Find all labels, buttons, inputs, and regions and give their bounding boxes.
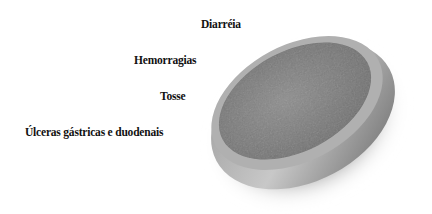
tablet-image — [195, 15, 432, 214]
symptom-label-tosse: Tosse — [160, 90, 185, 102]
tablet-disc-icon — [195, 15, 432, 214]
symptom-label-hemorragias: Hemorragias — [134, 54, 196, 66]
symptom-label-ulceras: Úlceras gástricas e duodenais — [25, 126, 163, 138]
